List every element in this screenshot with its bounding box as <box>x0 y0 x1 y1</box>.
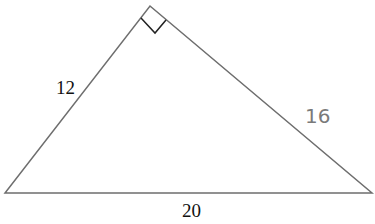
right-triangle-diagram: 12 16 20 <box>0 0 375 224</box>
base-label: 20 <box>182 200 201 221</box>
right-angle-marker <box>141 18 166 33</box>
triangle <box>5 6 372 193</box>
right-side-label: 16 <box>305 104 330 128</box>
left-side-label: 12 <box>56 77 75 98</box>
